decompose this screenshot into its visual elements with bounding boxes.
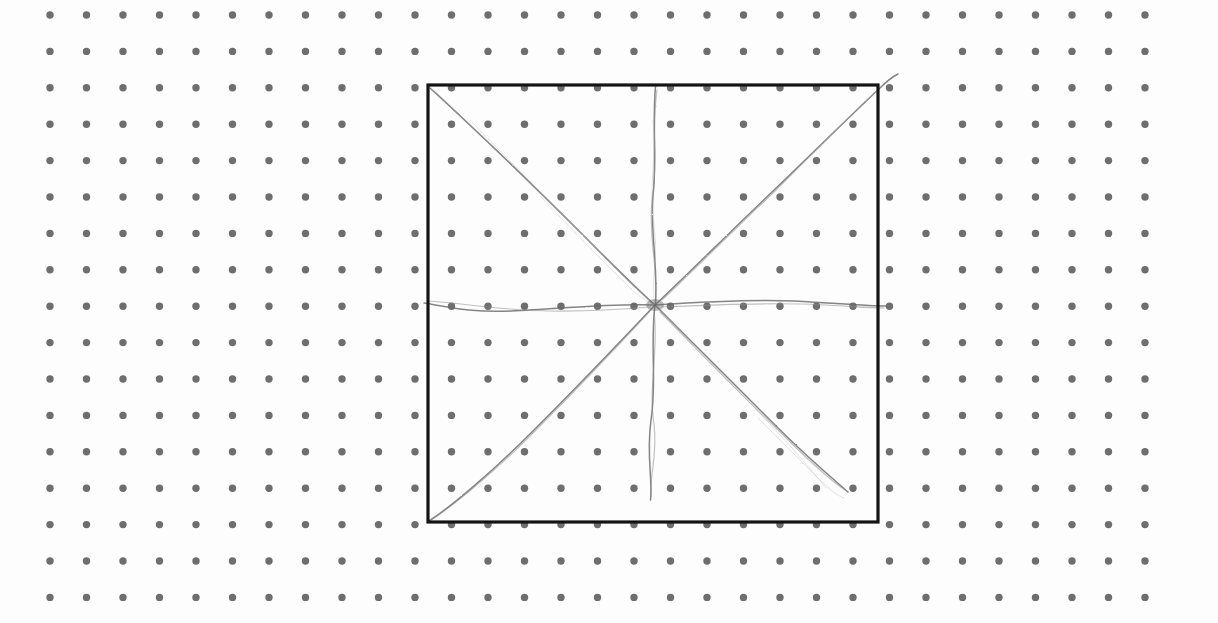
grid-dot (484, 448, 491, 455)
grid-dot (375, 557, 382, 564)
grid-dot (922, 157, 929, 164)
grid-dot (448, 266, 455, 273)
grid-dot (557, 121, 564, 128)
grid-dot (922, 448, 929, 455)
grid-dot (521, 594, 528, 601)
grid-dot (484, 193, 491, 200)
grid-dot (630, 557, 637, 564)
grid-dot (886, 266, 893, 273)
grid-dot (448, 230, 455, 237)
grid-dot (192, 193, 199, 200)
grid-dot (229, 193, 236, 200)
grid-dot (959, 485, 966, 492)
grid-dot (630, 230, 637, 237)
grid-dot (1032, 303, 1039, 310)
grid-dot (886, 375, 893, 382)
grid-dot (265, 339, 272, 346)
grid-dot (46, 521, 53, 528)
grid-dot (922, 303, 929, 310)
grid-dot (959, 84, 966, 91)
grid-dot (886, 193, 893, 200)
grid-dot (484, 266, 491, 273)
grid-dot (192, 339, 199, 346)
grid-dot (1141, 121, 1148, 128)
grid-dot (119, 521, 126, 528)
grid-dot (119, 266, 126, 273)
grid-dot (959, 412, 966, 419)
grid-dot (849, 594, 856, 601)
grid-dot (959, 557, 966, 564)
grid-dot (302, 303, 309, 310)
grid-dot (229, 230, 236, 237)
grid-dot (119, 448, 126, 455)
grid-dot (557, 193, 564, 200)
grid-dot (265, 230, 272, 237)
grid-dot (375, 594, 382, 601)
grid-dot (849, 266, 856, 273)
grid-dot (886, 521, 893, 528)
grid-dot (411, 193, 418, 200)
grid-dot (1068, 594, 1075, 601)
grid-dot (229, 266, 236, 273)
grid-dot (594, 485, 601, 492)
grid-dot (375, 230, 382, 237)
grid-dot (557, 594, 564, 601)
grid-dot (119, 303, 126, 310)
grid-dot (1105, 339, 1112, 346)
grid-dot (411, 448, 418, 455)
grid-dot (229, 339, 236, 346)
grid-dot (813, 48, 820, 55)
grid-dot (338, 303, 345, 310)
grid-dot (703, 48, 710, 55)
grid-dot (265, 375, 272, 382)
grid-dot (229, 375, 236, 382)
grid-dot (521, 303, 528, 310)
grid-dot (448, 11, 455, 18)
grid-dot (813, 11, 820, 18)
grid-dot (995, 303, 1002, 310)
grid-dot (1032, 594, 1039, 601)
grid-dot (849, 448, 856, 455)
grid-dot (156, 157, 163, 164)
grid-dot (703, 266, 710, 273)
grid-dot (959, 193, 966, 200)
grid-dot (119, 48, 126, 55)
grid-dot (813, 193, 820, 200)
grid-dot (1105, 448, 1112, 455)
grid-dot (302, 157, 309, 164)
grid-dot (46, 193, 53, 200)
grid-dot (156, 266, 163, 273)
grid-dot (557, 157, 564, 164)
grid-dot (776, 11, 783, 18)
grid-dot (740, 266, 747, 273)
grid-dot (1105, 485, 1112, 492)
grid-dot (448, 557, 455, 564)
grid-dot (156, 84, 163, 91)
grid-dot (46, 375, 53, 382)
grid-dot (156, 11, 163, 18)
grid-dot (375, 339, 382, 346)
grid-dot (1068, 193, 1075, 200)
grid-dot (1032, 448, 1039, 455)
grid-dot (338, 11, 345, 18)
grid-dot (375, 303, 382, 310)
grid-dot (83, 412, 90, 419)
grid-dot (703, 339, 710, 346)
grid-dot (813, 594, 820, 601)
grid-dot (1105, 230, 1112, 237)
grid-dot (229, 448, 236, 455)
grid-dot (1068, 84, 1075, 91)
grid-dot (1032, 157, 1039, 164)
grid-dot (630, 594, 637, 601)
grid-dot (229, 11, 236, 18)
grid-dot (1141, 193, 1148, 200)
grid-dot (886, 303, 893, 310)
grid-dot (302, 48, 309, 55)
grid-dot (959, 230, 966, 237)
grid-dot (557, 557, 564, 564)
grid-dot (886, 339, 893, 346)
grid-dot (302, 266, 309, 273)
grid-dot (375, 412, 382, 419)
grid-dot (1105, 157, 1112, 164)
grid-dot (448, 193, 455, 200)
